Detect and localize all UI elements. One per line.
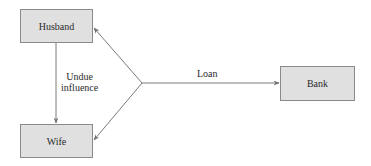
diagram-canvas: Husband Wife Bank Undue influence Loan [0,0,371,166]
edge-branch-to-wife [94,83,142,140]
edge-label-undue-line1: Undue [61,71,98,82]
edge-branch-to-husband [94,28,142,83]
node-bank-label: Bank [307,78,328,89]
node-wife: Wife [20,124,93,158]
edge-label-undue-influence: Undue influence [61,71,98,93]
node-husband-label: Husband [39,21,75,32]
edge-label-loan: Loan [197,68,218,79]
node-bank: Bank [280,66,355,101]
edge-label-loan-text: Loan [197,68,218,79]
edge-label-undue-line2: influence [61,82,98,93]
node-husband: Husband [20,9,93,43]
node-wife-label: Wife [47,136,67,147]
